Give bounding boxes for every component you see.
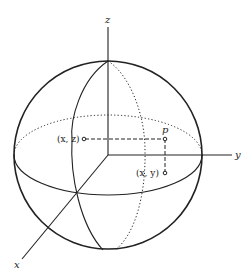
meridian-front — [72, 61, 108, 250]
point-xy — [163, 171, 167, 175]
diagram-svg: z y x p (x, z) (x, y) — [0, 0, 251, 277]
sphere-diagram: z y x p (x, z) (x, y) — [0, 0, 251, 277]
point-p-label: p — [162, 124, 169, 135]
point-p — [163, 137, 167, 141]
y-axis-label: y — [234, 149, 241, 160]
x-axis-label: x — [14, 259, 20, 270]
point-xy-label: (x, y) — [136, 168, 159, 178]
point-xz-label: (x, z) — [57, 134, 80, 144]
x-axis — [22, 155, 108, 259]
z-axis-label: z — [104, 14, 111, 25]
point-xz — [82, 137, 86, 141]
equator-front — [14, 155, 202, 195]
